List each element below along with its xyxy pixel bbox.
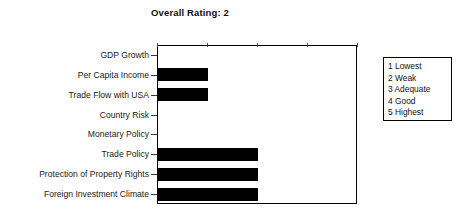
bar bbox=[158, 148, 258, 161]
y-axis-category-label: Trade Policy bbox=[0, 149, 149, 159]
chart-title: Overall Rating: 2 bbox=[0, 7, 380, 18]
x-axis-tick-mark bbox=[307, 43, 308, 47]
bar bbox=[158, 68, 208, 81]
y-axis-category-label: Country Risk bbox=[0, 110, 149, 120]
x-axis-tick-mark bbox=[257, 43, 258, 47]
y-axis-tick-mark bbox=[151, 194, 157, 195]
legend-entry: 2 Weak bbox=[388, 73, 451, 85]
legend-entry: 3 Adequate bbox=[388, 84, 451, 96]
y-axis-tick-mark bbox=[151, 115, 157, 116]
y-axis-tick-mark bbox=[151, 134, 157, 135]
y-axis-tick-mark bbox=[151, 95, 157, 96]
bar bbox=[158, 88, 208, 101]
y-axis-labels: GDP GrowthPer Capita IncomeTrade Flow wi… bbox=[0, 45, 153, 204]
y-axis-category-label: Protection of Property Rights bbox=[0, 169, 149, 179]
y-axis-tick-mark bbox=[151, 75, 157, 76]
legend-entry: 4 Good bbox=[388, 96, 451, 108]
y-axis-tick-mark bbox=[151, 55, 157, 56]
y-axis-category-label: Per Capita Income bbox=[0, 70, 149, 80]
bar bbox=[158, 168, 258, 181]
x-axis-tick-mark bbox=[157, 43, 158, 47]
y-axis-tick-mark bbox=[151, 154, 157, 155]
y-axis-category-label: Monetary Policy bbox=[0, 129, 149, 139]
legend-entry: 1 Lowest bbox=[388, 61, 451, 73]
x-axis-tick-mark bbox=[207, 43, 208, 47]
rating-bar-chart: Overall Rating: 2 GDP GrowthPer Capita I… bbox=[0, 0, 474, 224]
rating-scale-legend: 1 Lowest2 Weak3 Adequate4 Good5 Highest bbox=[383, 57, 452, 121]
x-axis-tick-mark bbox=[357, 43, 358, 47]
y-axis-category-label: Trade Flow with USA bbox=[0, 90, 149, 100]
legend-entry: 5 Highest bbox=[388, 107, 451, 119]
y-axis-tick-mark bbox=[151, 174, 157, 175]
y-axis-category-label: GDP Growth bbox=[0, 50, 149, 60]
bar bbox=[158, 188, 258, 201]
y-axis-category-label: Foreign Investment Climate bbox=[0, 189, 149, 199]
x-axis bbox=[157, 43, 358, 45]
